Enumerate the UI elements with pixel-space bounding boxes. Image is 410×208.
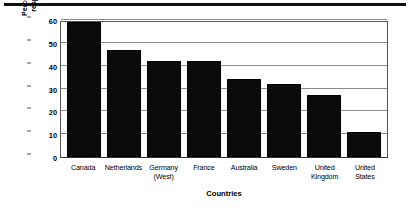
gridline <box>61 19 387 20</box>
y-axis-tick-label: 20 <box>31 108 57 117</box>
y-axis-tick-label: 10 <box>31 131 57 140</box>
bar-slot <box>264 22 304 157</box>
bar-slot <box>344 22 384 157</box>
x-axis-tick-label: Sweden <box>264 163 304 181</box>
y-axis-tick-mark <box>27 17 31 18</box>
x-axis-tick-label-line: Sweden <box>264 163 304 172</box>
y-axis-title-line-1: Percentage of population <box>20 0 30 16</box>
y-axis-tick-label: 30 <box>31 85 57 94</box>
bar-slot <box>224 22 264 157</box>
bar <box>227 79 261 157</box>
x-axis-tick-label-line: Canada <box>63 163 103 172</box>
y-axis-tick-label: 50 <box>31 39 57 48</box>
x-axis-tick-label-line: France <box>184 163 224 172</box>
bar <box>307 95 341 157</box>
x-axis-title: Countries <box>60 189 388 198</box>
bar <box>107 50 141 157</box>
y-axis-tick-label: 0 <box>31 154 57 163</box>
y-axis-tick-label: 60 <box>31 17 57 26</box>
x-axis-tick-label-line: Australia <box>224 163 264 172</box>
bar-slot <box>184 22 224 157</box>
x-axis-tick-label-line: Netherlands <box>103 163 143 172</box>
bar <box>67 22 101 157</box>
bar <box>347 132 381 157</box>
y-axis-title-line-2: responding favourably <box>29 0 39 12</box>
y-axis-tick-mark <box>27 85 31 86</box>
bar-slot <box>144 22 184 157</box>
bar-slot <box>104 22 144 157</box>
bar <box>267 84 301 157</box>
y-axis-tick-mark <box>27 108 31 109</box>
bar-series <box>61 22 387 157</box>
x-axis-tick-label: Canada <box>63 163 103 181</box>
bar-slot <box>304 22 344 157</box>
x-axis-tick-label: Australia <box>224 163 264 181</box>
x-axis-tick-label: France <box>184 163 224 181</box>
x-axis-tick-label-line: Kingdom <box>305 172 345 181</box>
x-axis-tick-label-line: (West) <box>144 172 184 181</box>
bar-chart-figure: Percentage of population responding favo… <box>0 0 410 208</box>
bar-slot <box>64 22 104 157</box>
x-axis-tick-label: Germany(West) <box>144 163 184 181</box>
bar <box>187 61 221 157</box>
x-axis-tick-label: Netherlands <box>103 163 143 181</box>
plot-area <box>60 21 388 158</box>
y-axis-tick-mark <box>27 39 31 40</box>
y-axis-tick-mark <box>27 154 31 155</box>
y-axis-tick-label: 40 <box>31 62 57 71</box>
bar <box>147 61 181 157</box>
y-axis-tick-mark <box>27 62 31 63</box>
x-axis-tick-label-line: United <box>305 163 345 172</box>
x-axis-tick-label: UnitedKingdom <box>305 163 345 181</box>
y-axis-tick-mark <box>27 131 31 132</box>
x-axis-tick-label-line: Germany <box>144 163 184 172</box>
x-axis-tick-label-line: United States <box>345 163 385 181</box>
x-axis-tick-labels: CanadaNetherlandsGermany(West)FranceAust… <box>60 163 388 181</box>
x-axis-tick-label: United States <box>345 163 385 181</box>
